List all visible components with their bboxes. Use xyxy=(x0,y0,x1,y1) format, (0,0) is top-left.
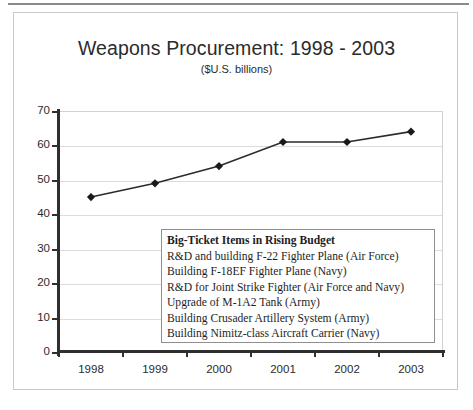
y-axis-tick xyxy=(52,111,58,113)
x-axis-tick xyxy=(314,351,316,357)
data-point-marker xyxy=(407,128,415,136)
y-axis-label: 40 xyxy=(22,207,50,219)
y-axis-label: 70 xyxy=(22,104,50,116)
callout-list-item: R&D for Joint Strike Fighter (Air Force … xyxy=(162,280,434,295)
data-point-marker xyxy=(87,193,95,201)
callout-list-item: Building Crusader Artillery System (Army… xyxy=(162,311,434,326)
data-point-marker xyxy=(215,162,223,170)
chart-title: Weapons Procurement: 1998 - 2003 xyxy=(14,37,459,60)
x-axis-label: 1999 xyxy=(142,363,168,375)
x-axis-tick xyxy=(250,351,252,357)
callout-list-item: Building Nimitz-class Aircraft Carrier (… xyxy=(162,326,434,341)
callout-list-item: Upgrade of M-1A2 Tank (Army) xyxy=(162,295,434,310)
series-line xyxy=(91,132,411,197)
y-axis-tick xyxy=(52,180,58,182)
x-axis-tick xyxy=(122,351,124,357)
y-axis-tick xyxy=(52,283,58,285)
y-axis-tick xyxy=(52,145,58,147)
callout-list-item: R&D and building F-22 Fighter Plane (Air… xyxy=(162,249,434,264)
data-point-marker xyxy=(151,179,159,187)
x-axis-label: 2003 xyxy=(398,363,424,375)
callout-list-item: Building F-18EF Fighter Plane (Navy) xyxy=(162,264,434,279)
x-axis-tick xyxy=(58,351,60,357)
y-axis-tick xyxy=(52,249,58,251)
y-axis-labels: 010203040506070 xyxy=(14,111,50,352)
page-top-rule xyxy=(8,3,469,5)
data-point-marker xyxy=(343,138,351,146)
callout-header: Big-Ticket Items in Rising Budget xyxy=(162,232,434,249)
y-axis-label: 50 xyxy=(22,173,50,185)
x-axis-label: 2002 xyxy=(334,363,360,375)
y-axis-tick xyxy=(52,318,58,320)
y-axis-label: 0 xyxy=(22,345,50,357)
data-point-marker xyxy=(279,138,287,146)
chart-container: Weapons Procurement: 1998 - 2003 ($U.S. … xyxy=(13,12,458,390)
y-axis-label: 20 xyxy=(22,276,50,288)
chart-subtitle: ($U.S. billions) xyxy=(14,63,459,75)
x-axis-label: 2000 xyxy=(206,363,232,375)
y-axis-label: 10 xyxy=(22,311,50,323)
y-axis-label: 60 xyxy=(22,138,50,150)
x-axis-tick xyxy=(186,351,188,357)
x-axis-tick xyxy=(442,351,444,357)
x-axis-label: 1998 xyxy=(78,363,104,375)
y-axis-tick xyxy=(52,214,58,216)
x-axis-label: 2001 xyxy=(270,363,296,375)
callout-legend-box: Big-Ticket Items in Rising Budget R&D an… xyxy=(161,229,435,343)
y-axis-label: 30 xyxy=(22,242,50,254)
x-axis-tick xyxy=(378,351,380,357)
